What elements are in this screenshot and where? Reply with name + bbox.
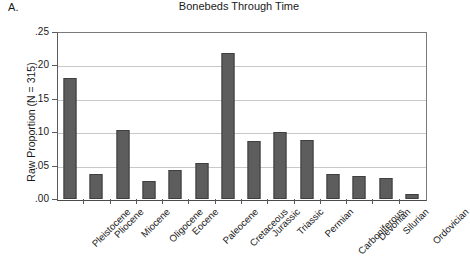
- x-tick-mark: [372, 199, 373, 204]
- chart-title: Bonebeds Through Time: [0, 0, 438, 12]
- x-tick-label: Ordovician: [430, 206, 470, 246]
- x-tick-mark: [215, 199, 216, 204]
- x-tick-label: Permian: [322, 206, 355, 239]
- bar-slot: [399, 32, 425, 199]
- bar: [248, 141, 261, 199]
- bar: [405, 194, 418, 199]
- bar-slot: [215, 32, 241, 199]
- bar: [116, 130, 129, 199]
- bar-slot: [57, 32, 83, 199]
- y-tick-label: .15: [19, 93, 49, 104]
- bar-slot: [267, 32, 293, 199]
- bar-slot: [83, 32, 109, 199]
- x-tick-mark: [188, 199, 189, 204]
- bar-slot: [294, 32, 320, 199]
- bar-slot: [320, 32, 346, 199]
- y-tick-mark: [52, 199, 57, 200]
- y-tick-label: .25: [19, 26, 49, 37]
- x-tick-mark: [267, 199, 268, 204]
- x-tick-mark: [346, 199, 347, 204]
- bar-slot: [162, 32, 188, 199]
- y-tick-label: .05: [19, 160, 49, 171]
- y-tick-label: .00: [19, 193, 49, 204]
- bar: [90, 174, 103, 199]
- x-tick-mark: [162, 199, 163, 204]
- bars-layer: [57, 32, 425, 199]
- x-tick-mark: [241, 199, 242, 204]
- bar: [169, 170, 182, 199]
- bar-slot: [110, 32, 136, 199]
- bar: [274, 132, 287, 199]
- x-tick-mark: [110, 199, 111, 204]
- x-tick-mark: [294, 199, 295, 204]
- bar-slot: [241, 32, 267, 199]
- x-tick-mark: [136, 199, 137, 204]
- x-tick-mark: [320, 199, 321, 204]
- bar: [379, 178, 392, 199]
- x-tick-mark: [399, 199, 400, 204]
- bar: [142, 181, 155, 199]
- bar: [300, 140, 313, 199]
- bar-slot: [188, 32, 214, 199]
- bar: [195, 163, 208, 199]
- y-tick-label: .20: [19, 59, 49, 70]
- bar-slot: [346, 32, 372, 199]
- y-tick-label: .10: [19, 126, 49, 137]
- x-tick-mark: [83, 199, 84, 204]
- bar: [221, 53, 234, 199]
- bar: [64, 78, 77, 199]
- bar: [353, 176, 366, 199]
- bar-slot: [372, 32, 398, 199]
- bar: [326, 174, 339, 199]
- bar-slot: [136, 32, 162, 199]
